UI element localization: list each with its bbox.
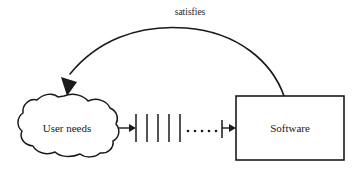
- diagram-canvas: User needs Softw: [0, 0, 356, 177]
- timeline-ellipsis-dot: [208, 130, 211, 133]
- satisfies-arrowhead-icon: [61, 77, 77, 96]
- timeline-ellipsis-dot: [187, 130, 190, 133]
- timeline-to-software-connector: [222, 124, 236, 132]
- satisfies-edge: [61, 27, 284, 96]
- user-needs-label: User needs: [43, 122, 92, 134]
- user-needs-node: User needs: [18, 94, 119, 157]
- diagram-svg: User needs Softw: [0, 0, 356, 177]
- timeline-ellipsis-dot: [201, 130, 204, 133]
- timeline-ellipsis-dot: [194, 130, 197, 133]
- software-entry-arrowhead-icon: [229, 124, 236, 132]
- cloud-to-timeline-connector: [118, 124, 136, 132]
- timeline-ellipsis-dot: [215, 130, 218, 133]
- process-timeline: [136, 114, 222, 142]
- timeline-entry-arrowhead-icon: [129, 124, 136, 132]
- software-label: Software: [270, 122, 310, 134]
- software-node: Software: [236, 96, 344, 160]
- satisfies-arc-path: [70, 27, 284, 96]
- satisfies-edge-label: satisfies: [175, 7, 206, 17]
